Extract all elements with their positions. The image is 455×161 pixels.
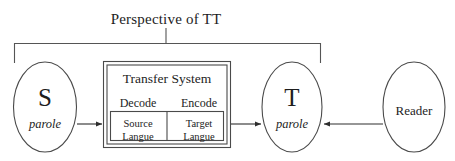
target-node-label: T <box>284 85 299 110</box>
source-langue-cell-line2: Langue <box>122 132 154 143</box>
scope-bracket <box>15 28 321 63</box>
diagram-vector-layer <box>0 0 455 161</box>
source-langue-cell-line1: Source <box>123 119 152 130</box>
reader-node-label: Reader <box>396 104 433 117</box>
diagram-canvas: Perspective of TT S parole T parole Read… <box>0 0 455 161</box>
encode-phase-label: Encode <box>181 97 217 109</box>
source-node-label: S <box>38 85 52 110</box>
transfer-system-title: Transfer System <box>123 72 211 86</box>
target-langue-cell-line2: Langue <box>183 132 215 143</box>
source-node-sublabel: parole <box>29 118 61 131</box>
decode-phase-label: Decode <box>120 97 157 109</box>
diagram-title: Perspective of TT <box>111 12 222 27</box>
target-node-sublabel: parole <box>276 118 308 131</box>
target-langue-cell-line1: Target <box>186 119 212 130</box>
